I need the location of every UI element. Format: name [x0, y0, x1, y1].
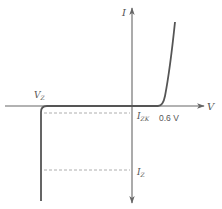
- izk-label: IZK: [136, 111, 150, 122]
- iv-curve: [41, 22, 175, 201]
- vz-label: VZ: [34, 90, 46, 101]
- zener-iv-diagram: I V VZ IZK 0.6 V IZ: [0, 0, 222, 209]
- iz-label: IZ: [136, 167, 146, 178]
- v-axis-label: V: [207, 101, 216, 112]
- forward-voltage-label: 0.6 V: [159, 113, 179, 123]
- i-axis-label: I: [121, 7, 127, 18]
